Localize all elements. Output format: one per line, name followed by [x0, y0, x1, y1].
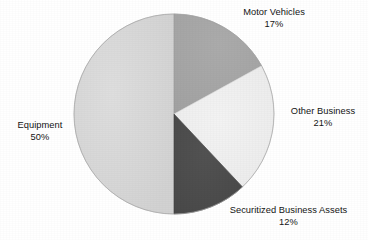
pie-slice-equipment [74, 14, 174, 214]
pie-label-securitized-business-assets: Securitized Business Assets 12% [209, 205, 368, 229]
pie-label-securitized-business-assets-name: Securitized Business Assets [209, 205, 368, 217]
pie-label-motor-vehicles: Motor Vehicles 17% [213, 7, 335, 31]
pie-label-other-business: Other Business 21% [279, 106, 367, 130]
pie-label-equipment-value: 50% [2, 132, 78, 144]
pie-label-other-business-value: 21% [279, 118, 367, 130]
pie-label-securitized-business-assets-value: 12% [209, 217, 368, 229]
pie-chart: Motor Vehicles 17% Other Business 21% Se… [0, 0, 368, 240]
pie-label-equipment-name: Equipment [2, 120, 78, 132]
pie-label-motor-vehicles-name: Motor Vehicles [213, 7, 335, 19]
pie-label-other-business-name: Other Business [279, 106, 367, 118]
pie-label-motor-vehicles-value: 17% [213, 19, 335, 31]
pie-label-equipment: Equipment 50% [2, 120, 78, 144]
